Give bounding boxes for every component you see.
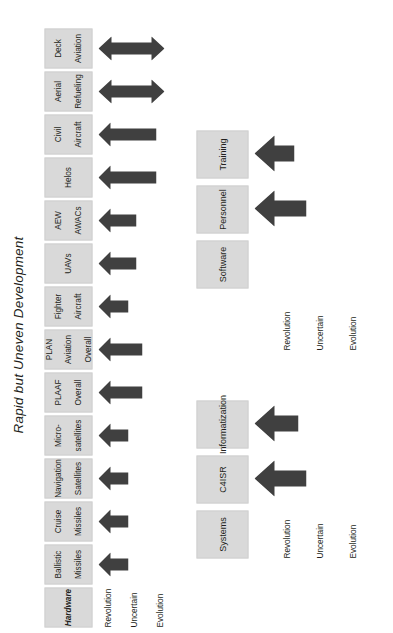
box-ballistic-missiles: BallisticMissiles bbox=[44, 544, 92, 584]
arrow-cruise-missiles bbox=[98, 509, 128, 533]
arrow-training bbox=[254, 135, 294, 171]
arrow-uavs bbox=[98, 251, 136, 275]
arrow-c4isr bbox=[254, 460, 306, 496]
systems-scale-revolution-2: Revolution bbox=[282, 311, 291, 350]
box-training: Training bbox=[196, 130, 248, 178]
box-c4isr: C4ISR bbox=[196, 455, 248, 503]
arrow-navigation-satellites bbox=[98, 466, 128, 490]
arrow-plan-aviation-overall bbox=[98, 337, 142, 361]
box-cruise-missiles: CruiseMissiles bbox=[44, 501, 92, 541]
box-civil-aircraft: CivilAircraft bbox=[44, 114, 92, 154]
systems-scale-uncertain-2: Uncertain bbox=[315, 315, 324, 350]
arrow-plaaf-overall bbox=[98, 380, 142, 404]
arrow-personnel bbox=[254, 190, 306, 226]
arrow-helos bbox=[98, 165, 156, 189]
arrow-aerial-refueling-double bbox=[98, 79, 164, 103]
systems-scale-uncertain: Uncertain bbox=[315, 523, 324, 558]
arrow-deck-aviation-double bbox=[98, 36, 164, 60]
arrow-ballistic-missiles bbox=[98, 552, 128, 576]
diagram-canvas: Rapid but Uneven Development Hardware Ba… bbox=[0, 0, 393, 633]
box-navigation-satellites: NavigationSatellites bbox=[44, 458, 92, 498]
box-aew-awacs: AEWAWACs bbox=[44, 200, 92, 240]
arrow-aew-awacs bbox=[98, 208, 136, 232]
systems-scale-revolution: Revolution bbox=[282, 519, 291, 558]
systems-scale-evolution-2: Evolution bbox=[348, 316, 357, 350]
box-deck-aviation: DeckAviation bbox=[44, 28, 92, 68]
box-uavs: UAVs bbox=[44, 243, 92, 283]
arrow-fighter-aircraft bbox=[98, 294, 128, 318]
box-aerial-refueling: AerialRefueling bbox=[44, 71, 92, 111]
hardware-scale-evolution: Evolution bbox=[155, 593, 164, 627]
arrow-micro-satellites bbox=[98, 423, 128, 447]
hardware-header-label: Hardware bbox=[63, 588, 73, 625]
box-personnel: Personnel bbox=[196, 185, 248, 233]
box-micro-satellites: Micro-satellites bbox=[44, 415, 92, 455]
hardware-header-box: Hardware bbox=[44, 587, 92, 627]
box-fighter-aircraft: FighterAircraft bbox=[44, 286, 92, 326]
systems-header-label: Systems bbox=[217, 517, 228, 552]
arrow-civil-aircraft bbox=[98, 122, 156, 146]
arrow-informatization bbox=[254, 405, 298, 441]
box-plan-aviation-overall: PLANAviationOverall bbox=[44, 329, 92, 369]
hardware-scale-revolution: Revolution bbox=[103, 588, 112, 627]
systems-scale-evolution: Evolution bbox=[348, 524, 357, 558]
box-informatization: Informatization bbox=[196, 400, 248, 448]
box-software: Software bbox=[196, 240, 248, 288]
hardware-scale-uncertain: Uncertain bbox=[129, 592, 138, 627]
systems-header-box: Systems bbox=[196, 510, 248, 558]
page-title: Rapid but Uneven Development bbox=[10, 236, 25, 433]
box-plaaf-overall: PLAAFOverall bbox=[44, 372, 92, 412]
box-helos: Helos bbox=[44, 157, 92, 197]
